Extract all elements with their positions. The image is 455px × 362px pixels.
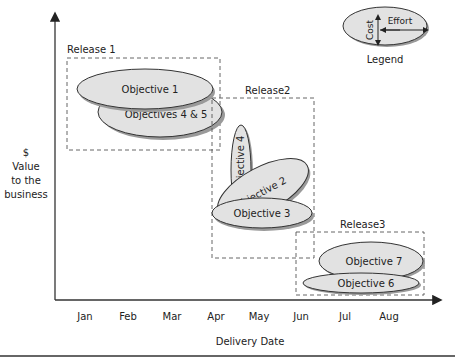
svg-text:business: business [4,189,48,200]
tick-aug: Aug [379,311,399,322]
value-delivery-diagram: $ Value to the business Jan Feb Mar Apr … [0,0,455,362]
tick-jun: Jun [292,311,309,322]
release-1-group: Release 1 Objectives 4 & 5 Objective 1 [67,44,225,150]
tick-jan: Jan [76,311,92,322]
tick-apr: Apr [207,311,225,322]
tick-mar: Mar [163,311,183,322]
legend-effort-label: Effort [388,16,413,26]
release-2-group: Release2 Objective 4 Objective 2 Objecti… [209,85,320,258]
release-3-group: Release3 Objective 7 Objective 6 [296,219,425,295]
tick-may: May [249,311,270,322]
x-axis-ticks: Jan Feb Mar Apr May Jun Jul Aug [76,311,398,322]
legend-cost-label: Cost [365,20,375,40]
tick-jul: Jul [338,311,351,322]
y-axis-label: $ Value to the business [4,147,48,200]
svg-text:Value: Value [12,161,39,172]
svg-text:to the: to the [11,175,41,186]
objective-1-label: Objective 1 [122,84,179,95]
legend-title: Legend [367,54,404,65]
release-2-label: Release2 [245,85,290,96]
objective-3-label: Objective 3 [234,208,291,219]
svg-text:$: $ [23,147,29,158]
release-3-label: Release3 [340,219,385,230]
tick-feb: Feb [119,311,137,322]
legend: Cost Effort Legend [343,7,429,65]
objective-6-label: Objective 6 [338,278,395,289]
objective-7-label: Objective 7 [346,256,403,267]
x-axis-label: Delivery Date [216,336,285,347]
legend-ellipse [343,7,427,45]
release-1-label: Release 1 [67,44,116,55]
